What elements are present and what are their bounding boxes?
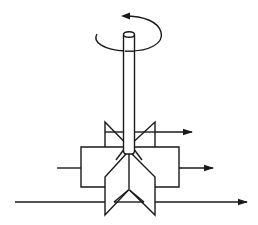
diagram-canvas	[0, 0, 258, 225]
lower-vanes	[105, 150, 155, 215]
shaft	[124, 32, 135, 154]
impeller-diagram	[0, 0, 258, 225]
